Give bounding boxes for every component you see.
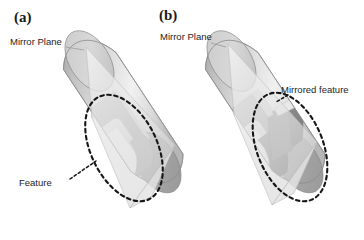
figure-root: (a) Mirror Plane Feature: [0, 0, 364, 240]
panel-b-mirrored-feature-label: Mirrored feature: [281, 84, 349, 95]
panel-b-tag: (b): [159, 7, 177, 24]
panel-b-mirror-plane-label: Mirror Plane: [160, 31, 212, 42]
panel-a-tag: (a): [14, 9, 32, 26]
slot-b-rounded-end: [223, 138, 246, 164]
panel-a-feature-label: Feature: [19, 177, 52, 188]
feature-leader-line-a: [70, 161, 96, 179]
panel-b: (b) Mirror Plane Mirrored feature: [159, 7, 349, 212]
panel-a-mirror-plane-label: Mirror Plane: [10, 36, 62, 47]
technical-figure-canvas: (a) Mirror Plane Feature: [0, 0, 364, 240]
